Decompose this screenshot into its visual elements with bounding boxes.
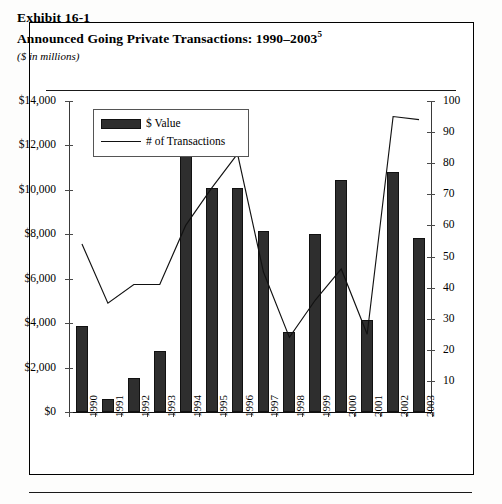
y-axis-left-tick-label: $0 [45,406,57,417]
y-axis-left-tick-label: $6,000 [24,273,56,284]
chart-plot: $14,000$12,000$10,000$8,000$6,000$4,000$… [69,101,432,412]
chart-plot-area: $14,000$12,000$10,000$8,000$6,000$4,000$… [69,101,432,412]
exhibit-units-note: ($ in millions) [17,48,427,65]
y-axis-right-tick-label: 90 [443,126,455,137]
legend-label-value: $ Value [146,117,181,129]
y-axis-right-tick-label: 50 [443,251,455,262]
y-axis-right-tick-label: 10 [443,375,455,386]
y-axis-left-tick-label: $12,000 [19,139,56,150]
y-axis-right-tick-label: 20 [443,344,455,355]
exhibit-title-text: Announced Going Private Transactions: 19… [17,31,317,46]
exhibit-header: Exhibit 16-1 Announced Going Private Tra… [17,10,427,65]
x-axis-tick [69,412,70,417]
exhibit-number: Exhibit 16-1 [17,10,427,26]
line-swatch-icon [101,141,141,142]
header-divider [46,90,456,91]
legend-label-transactions: # of Transactions [146,135,225,147]
y-axis-right-tick-label: 80 [443,157,455,168]
exhibit-title: Announced Going Private Transactions: 19… [17,26,427,47]
y-axis-right-tick-label: 60 [443,219,455,230]
y-axis-left-tick-label: $2,000 [24,362,56,373]
y-axis-left-tick-label: $4,000 [24,317,56,328]
y-axis-right-tick-label: 70 [443,188,455,199]
y-axis-left-tick-label: $14,000 [19,95,56,106]
exhibit-page: Exhibit 16-1 Announced Going Private Tra… [0,0,502,504]
y-axis-left-tick-label: $8,000 [24,228,56,239]
bar-swatch-icon [101,119,141,129]
exhibit-title-footnote-marker: 5 [317,29,322,39]
y-axis-right-tick-label: 40 [443,282,455,293]
y-axis-right-tick-label: 100 [443,95,460,106]
y-axis-right-tick-label: 30 [443,313,455,324]
chart-legend: $ Value # of Transactions [93,109,249,157]
page-footer-divider [29,492,472,493]
y-axis-left-tick-label: $10,000 [19,184,56,195]
